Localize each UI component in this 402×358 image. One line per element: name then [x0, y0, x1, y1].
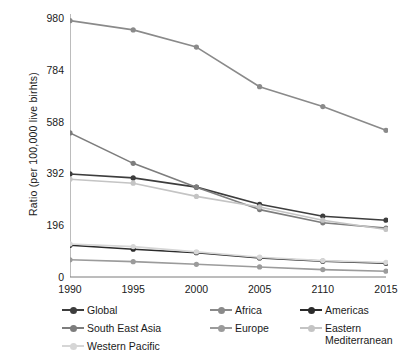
legend-item[interactable]: Eastern Mediterranean: [300, 322, 393, 346]
data-point: [131, 175, 136, 180]
legend-marker-icon: [62, 341, 84, 352]
x-tick-label: 1990: [48, 283, 92, 295]
data-point: [257, 264, 262, 269]
data-point: [320, 258, 325, 263]
data-point: [194, 185, 199, 190]
legend-item[interactable]: South East Asia: [62, 322, 161, 334]
legend-marker-icon: [62, 323, 84, 334]
series-line: [70, 174, 386, 220]
series-europe: [70, 257, 388, 274]
legend-item[interactable]: Western Pacific: [62, 340, 160, 352]
line-chart-svg: [70, 14, 388, 280]
legend-item[interactable]: Africa: [210, 304, 262, 316]
data-point: [70, 257, 73, 262]
series-africa: [70, 18, 388, 133]
legend-marker-icon: [210, 323, 232, 334]
y-tick-label: 392: [28, 168, 64, 178]
series-line: [70, 21, 386, 131]
data-point: [320, 267, 325, 272]
y-axis-tick-labels: 0196392588784980: [24, 0, 64, 300]
series-global: [70, 171, 388, 222]
plot-area: [70, 14, 388, 280]
y-tick-label: 784: [28, 65, 64, 75]
legend-item[interactable]: Europe: [210, 322, 269, 334]
data-point: [194, 194, 199, 199]
legend-marker-icon: [300, 323, 322, 334]
legend-label: Eastern Mediterranean: [325, 322, 393, 346]
y-tick-label: 0: [28, 272, 64, 282]
data-point: [383, 218, 388, 223]
y-tick-label: 980: [28, 13, 64, 23]
x-tick-label: 2000: [174, 283, 218, 295]
x-axis-tick-labels: 199019952000200521102015: [70, 283, 388, 299]
data-point: [194, 262, 199, 267]
legend-label: Europe: [235, 322, 269, 334]
data-point: [257, 204, 262, 209]
data-point: [70, 18, 73, 23]
series-south-east-asia: [70, 130, 388, 230]
chart-figure: Ratio (per 100,000 live birhts) 01963925…: [0, 0, 402, 358]
data-point: [70, 177, 73, 182]
axis-lines: [70, 14, 386, 277]
series-line: [70, 179, 386, 229]
data-point: [131, 244, 136, 249]
y-tick-label: 588: [28, 117, 64, 127]
data-point: [320, 218, 325, 223]
x-tick-label: 1995: [111, 283, 155, 295]
data-point: [194, 44, 199, 49]
series-layer: [70, 18, 388, 274]
legend-marker-icon: [62, 305, 84, 316]
legend-label: South East Asia: [87, 322, 161, 334]
data-point: [383, 269, 388, 274]
data-point: [257, 84, 262, 89]
data-point: [257, 255, 262, 260]
data-point: [194, 249, 199, 254]
legend-label: Western Pacific: [87, 340, 160, 352]
y-tick-label: 196: [28, 220, 64, 230]
data-point: [70, 171, 73, 176]
data-point: [320, 104, 325, 109]
legend-label: Global: [87, 304, 117, 316]
legend-item[interactable]: Global: [62, 304, 117, 316]
chart-legend: GlobalAfricaAmericasSouth East AsiaEurop…: [62, 304, 402, 356]
data-point: [383, 128, 388, 133]
series-line: [70, 244, 386, 263]
legend-marker-icon: [210, 305, 232, 316]
x-tick-label: 2015: [364, 283, 402, 295]
series-line: [70, 133, 386, 228]
x-tick-label: 2005: [238, 283, 282, 295]
data-point: [131, 259, 136, 264]
legend-marker-icon: [300, 305, 322, 316]
legend-item[interactable]: Americas: [300, 304, 369, 316]
data-point: [131, 161, 136, 166]
x-tick-label: 2110: [301, 283, 345, 295]
data-point: [131, 27, 136, 32]
legend-label: Americas: [325, 304, 369, 316]
data-point: [131, 181, 136, 186]
legend-label: Africa: [235, 304, 262, 316]
